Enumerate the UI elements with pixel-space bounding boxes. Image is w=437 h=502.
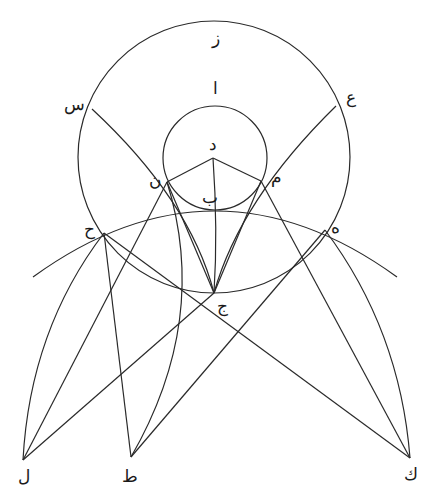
point-label-ayn: ع xyxy=(346,87,356,108)
arc-he-k xyxy=(325,230,410,458)
seg-d-n xyxy=(167,158,213,182)
point-label-n: ن xyxy=(149,170,161,190)
arc-s-n-j xyxy=(92,109,214,293)
outer-circle xyxy=(78,21,350,293)
arc-h-l xyxy=(23,233,104,460)
seg-h-k xyxy=(104,233,410,458)
point-label-k: ك xyxy=(404,464,418,484)
point-label-t: ط xyxy=(122,466,138,486)
point-label-h: ح xyxy=(84,219,95,240)
point-label-m: م xyxy=(271,167,282,188)
seg-d-m xyxy=(213,158,261,181)
point-label-s: س xyxy=(64,94,85,115)
diagram-canvas: زاسعدنمبحهجلطك xyxy=(0,0,437,502)
point-label-he: ه xyxy=(331,217,340,237)
arc-n-t xyxy=(131,182,182,457)
point-label-j: ج xyxy=(217,296,228,317)
point-label-l: ل xyxy=(18,466,30,486)
seg-he-t xyxy=(131,230,325,457)
point-labels-group: زاسعدنمبحهجلطك xyxy=(18,28,418,486)
point-label-d: د xyxy=(209,134,217,154)
arc-d-j xyxy=(213,158,216,293)
point-label-z: ز xyxy=(211,28,220,49)
seg-h-t xyxy=(104,233,131,457)
point-label-b: ب xyxy=(202,187,218,207)
seg-j-l xyxy=(23,293,214,460)
arc-ayn-m-j xyxy=(214,106,336,293)
circles-group xyxy=(78,21,350,293)
point-label-a: ا xyxy=(213,78,218,98)
geometry-diagram: زاسعدنمبحهجلطك xyxy=(0,0,437,502)
seg-m-j xyxy=(214,181,261,293)
